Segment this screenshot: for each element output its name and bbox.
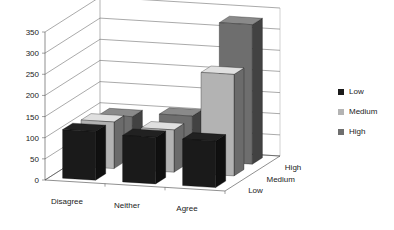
legend-item-high: High — [338, 126, 377, 137]
legend-label-medium: Medium — [349, 107, 377, 116]
bar-side — [234, 68, 244, 176]
bar-low-agree — [183, 133, 226, 188]
bar-side — [96, 125, 106, 180]
y-axis-ticks: 050100150200250300350 — [26, 28, 45, 185]
y-tick-label: 200 — [26, 91, 40, 100]
y-tick-label: 100 — [26, 134, 40, 143]
y-tick-label: 300 — [26, 49, 40, 58]
legend-swatch-low — [338, 89, 344, 95]
y-tick-label: 150 — [26, 113, 40, 122]
bar-low-disagree — [63, 123, 106, 180]
legend-swatch-medium — [338, 109, 344, 115]
3d-bar-chart: 050100150200250300350 DisagreeNeitherAgr… — [0, 0, 394, 230]
x-category-label: Disagree — [51, 197, 84, 206]
depth-category-label: Medium — [267, 175, 296, 184]
depth-category-label: Low — [248, 186, 263, 195]
legend-item-medium: Medium — [338, 106, 377, 117]
legend-swatch-high — [338, 129, 344, 135]
bar-low-neither — [123, 129, 166, 184]
y-tick-label: 50 — [30, 155, 39, 164]
y-tick-label: 250 — [26, 70, 40, 79]
legend-label-high: High — [349, 127, 365, 136]
bar-front — [123, 135, 156, 184]
legend: Low Medium High — [338, 86, 377, 146]
bar-front — [63, 130, 96, 181]
bars — [63, 16, 263, 187]
bar-front — [183, 139, 216, 188]
legend-label-low: Low — [349, 87, 364, 96]
x-category-label: Agree — [176, 204, 198, 213]
bar-side — [156, 131, 166, 184]
y-tick-label: 0 — [35, 176, 40, 185]
x-axis-categories: DisagreeNeitherAgree — [51, 184, 225, 214]
legend-item-low: Low — [338, 86, 377, 97]
depth-category-label: High — [285, 163, 301, 172]
bar-side — [216, 135, 226, 188]
x-category-label: Neither — [114, 201, 140, 210]
depth-axis-categories: LowMediumHigh — [248, 163, 301, 195]
bar-side — [252, 18, 262, 164]
y-tick-label: 350 — [26, 28, 40, 37]
